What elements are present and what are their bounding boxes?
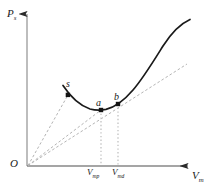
marker-point-a bbox=[99, 108, 103, 112]
tick-label-vmp-subscript: mp bbox=[93, 173, 100, 179]
tick-label-vmd: Vmd bbox=[112, 168, 124, 179]
pv-diagram-figure: Ps Vm O s a b Vmp Vmd bbox=[0, 0, 213, 192]
tick-label-vmd-subscript: md bbox=[118, 173, 125, 179]
y-axis-label-subscript: s bbox=[14, 14, 17, 21]
tangent-ray-origin-to-b bbox=[28, 64, 187, 166]
y-axis-label: Ps bbox=[7, 8, 16, 22]
x-axis-label-main: V bbox=[192, 169, 199, 181]
chord-origin-to-s bbox=[28, 95, 68, 166]
plot-canvas bbox=[0, 0, 213, 192]
point-label-a: a bbox=[96, 98, 101, 108]
y-axis-label-main: P bbox=[7, 7, 14, 19]
marker-point-s bbox=[66, 93, 70, 97]
chord-origin-to-a bbox=[28, 110, 101, 166]
point-label-b: b bbox=[114, 92, 119, 102]
origin-label: O bbox=[10, 158, 18, 169]
tick-label-vmp: Vmp bbox=[87, 168, 99, 179]
x-axis-label-subscript: m bbox=[199, 176, 204, 183]
point-label-s: s bbox=[66, 79, 70, 89]
marker-point-b bbox=[116, 102, 120, 106]
saturation-curve bbox=[63, 20, 190, 111]
x-axis-label: Vm bbox=[192, 170, 204, 184]
